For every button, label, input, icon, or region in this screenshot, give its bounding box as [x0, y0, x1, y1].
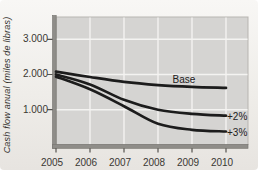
y-tick-label-2000: 2.000 [14, 68, 48, 79]
y-axis-title: Cash flow anual (miles de libras) [2, 3, 13, 167]
chart-canvas [0, 0, 258, 170]
series-label-plus3pct: +3% [227, 126, 257, 139]
y-tick-label-3000: 3.000 [14, 33, 48, 44]
x-tick-label-2010: 2010 [204, 157, 240, 168]
series-label-base: Base [163, 73, 205, 86]
cash-flow-chart-panel: Cash flow anual (miles de libras) 3.000 … [0, 0, 258, 170]
x-tick-label-2006: 2006 [68, 157, 104, 168]
series-label-plus2pct: +2% [227, 110, 257, 123]
x-tick-label-2007: 2007 [102, 157, 138, 168]
x-tick-label-2009: 2009 [170, 157, 206, 168]
x-tick-label-2008: 2008 [136, 157, 172, 168]
y-tick-label-1000: 1.000 [14, 104, 48, 115]
x-tick-label-2005: 2005 [34, 157, 70, 168]
